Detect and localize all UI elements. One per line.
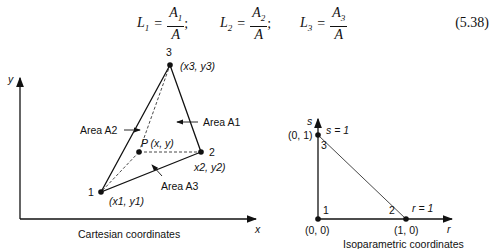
node-1-coord: (x1, y1) [109, 195, 144, 207]
iso-node-1-label: 1 [323, 204, 329, 216]
iso-node-3 [315, 132, 321, 138]
area-a2-label: Area A2 [80, 124, 118, 136]
area-a3-label: Area A3 [161, 180, 199, 192]
node-2-label: 2 [209, 146, 215, 158]
y-axis-label: y [7, 73, 14, 85]
node-2-coord: x2, y2) [193, 161, 226, 173]
node-1 [98, 189, 104, 195]
s-equals-1-label: s = 1 [326, 124, 349, 136]
iso-node-2-coord: (1, 0) [394, 224, 419, 236]
node-1-label: 1 [88, 186, 94, 198]
node-3 [167, 62, 173, 68]
s-axis-label: s [307, 115, 313, 127]
iso-node-3-coord: (0, 1) [288, 129, 313, 141]
node-2 [198, 149, 204, 155]
x-axis-label: x [254, 223, 261, 235]
cartesian-caption: Cartesian coordinates [78, 228, 180, 240]
isoparametric-diagram: s r 1 (0, 0) 2 (1, 0) 3 (0, 1) s = 1 r =… [288, 115, 464, 249]
iso-node-2-label: 2 [389, 204, 395, 216]
node-3-label: 3 [166, 46, 172, 58]
iso-node-3-label: 3 [321, 139, 327, 151]
figure-diagrams: y x 1 (x1, y1) 2 x2, y2) 3 (x3, y3) P (x… [0, 0, 497, 249]
area-a1-label: Area A1 [203, 116, 241, 128]
point-p [136, 149, 142, 155]
point-p-label: P (x, y) [141, 137, 174, 149]
isoparametric-caption: Isoparametric coordinates [343, 238, 464, 249]
iso-node-1 [315, 216, 321, 222]
r-equals-1-label: r = 1 [412, 202, 433, 214]
node-3-coord: (x3, y3) [180, 60, 215, 72]
cartesian-diagram: y x 1 (x1, y1) 2 x2, y2) 3 (x3, y3) P (x… [7, 46, 261, 240]
iso-node-1-coord: (0, 0) [305, 224, 330, 236]
iso-node-2 [403, 216, 409, 222]
r-axis-label: r [447, 223, 451, 235]
